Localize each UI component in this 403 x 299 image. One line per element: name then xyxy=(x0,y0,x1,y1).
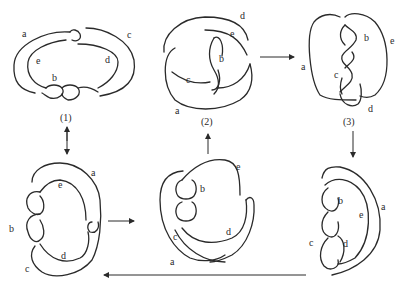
p5-label-e: e xyxy=(236,161,241,172)
p5-label-d: d xyxy=(226,226,231,237)
p5-label-b: b xyxy=(200,183,205,194)
panel-2-knot xyxy=(164,17,252,109)
p3-label-d: d xyxy=(368,103,373,114)
p2-caption: (2) xyxy=(201,116,213,128)
panel-5-knot xyxy=(160,160,254,262)
p4-label-b: b xyxy=(9,223,14,234)
p1-label-d: d xyxy=(105,54,110,65)
p6-label-b: b xyxy=(338,195,343,206)
p1-label-e: e xyxy=(36,55,41,66)
p1-label-b: b xyxy=(52,72,57,83)
p1-caption: (1) xyxy=(60,112,72,124)
p2-label-b: b xyxy=(219,53,224,64)
p2-label-c: c xyxy=(186,74,191,85)
p1-label-a: a xyxy=(22,28,27,39)
p2-label-d: d xyxy=(240,10,245,21)
p5-label-a: a xyxy=(170,256,175,267)
p2-label-a: a xyxy=(175,105,180,116)
p3-label-b: b xyxy=(364,32,369,43)
panel-3-knot xyxy=(309,14,387,106)
p1-label-c: c xyxy=(127,29,132,40)
p5-label-c: c xyxy=(173,231,178,242)
p3-label-c: c xyxy=(334,69,339,80)
knot-diagram-canvas: a c e d b (1) d e b c a (2) b e a c d (3… xyxy=(0,0,403,299)
p3-label-a: a xyxy=(301,61,306,72)
p3-label-e: e xyxy=(390,35,395,46)
panel-6-knot xyxy=(321,167,381,275)
p4-label-e: e xyxy=(58,179,63,190)
p4-label-d: d xyxy=(61,250,66,261)
p3-caption: (3) xyxy=(343,116,355,128)
p4-label-a: a xyxy=(91,167,96,178)
p6-label-a: a xyxy=(381,201,386,212)
p6-label-c: c xyxy=(309,237,314,248)
p2-label-e: e xyxy=(230,28,235,39)
p6-label-e: e xyxy=(359,209,364,220)
p4-label-c: c xyxy=(25,263,30,274)
panel-1-knot xyxy=(14,28,135,100)
p6-label-d: d xyxy=(343,238,348,249)
